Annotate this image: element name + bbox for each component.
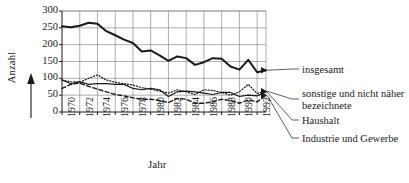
legend-label-2: Haushalt [302, 115, 339, 127]
x-tick-label: 1986 [208, 97, 219, 117]
x-tick-label: 1976 [119, 97, 130, 117]
x-tick-label: 1980 [155, 97, 166, 117]
legend-label-3: Industrie und Gewerbe [302, 133, 398, 145]
x-tick-label: 1974 [101, 97, 112, 117]
x-tick-label: 1982 [172, 97, 183, 117]
y-tick-label: 200 [20, 38, 58, 49]
x-tick-label: 1984 [190, 97, 201, 117]
y-tick-label: 300 [20, 4, 58, 15]
y-tick-label: 150 [20, 55, 58, 66]
x-axis-title: Jahr [148, 158, 166, 170]
legend-label-0: insgesamt [302, 64, 344, 76]
y-tick-label: 0 [20, 105, 58, 116]
x-tick-label: 1970 [66, 97, 77, 117]
series-line-0 [62, 23, 266, 72]
x-tick-label: 1988 [226, 97, 237, 117]
legend-label-1: sonstige und nicht näher bezeichnete [302, 88, 409, 111]
y-tick-label: 250 [20, 21, 58, 32]
y-tick-label: 100 [20, 71, 58, 82]
y-tick-label: 50 [20, 88, 58, 99]
x-tick-label: 1990 [243, 97, 254, 117]
x-tick-label: 1972 [84, 97, 95, 117]
chart-figure: Anzahl Jahr 3002502001501005001970197219… [0, 0, 409, 183]
x-tick-label: 1992 [261, 97, 272, 117]
x-tick-label: 1978 [137, 97, 148, 117]
